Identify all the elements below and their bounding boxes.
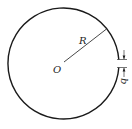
split-ring-diagram: O R b bbox=[0, 0, 132, 129]
center-label: O bbox=[53, 64, 61, 75]
gap-arrow-top-head bbox=[123, 56, 126, 60]
gap-label: b bbox=[119, 78, 130, 84]
gap-arrow-bottom-head bbox=[123, 68, 126, 72]
ring-arc bbox=[8, 8, 119, 119]
radius-label: R bbox=[78, 35, 87, 46]
